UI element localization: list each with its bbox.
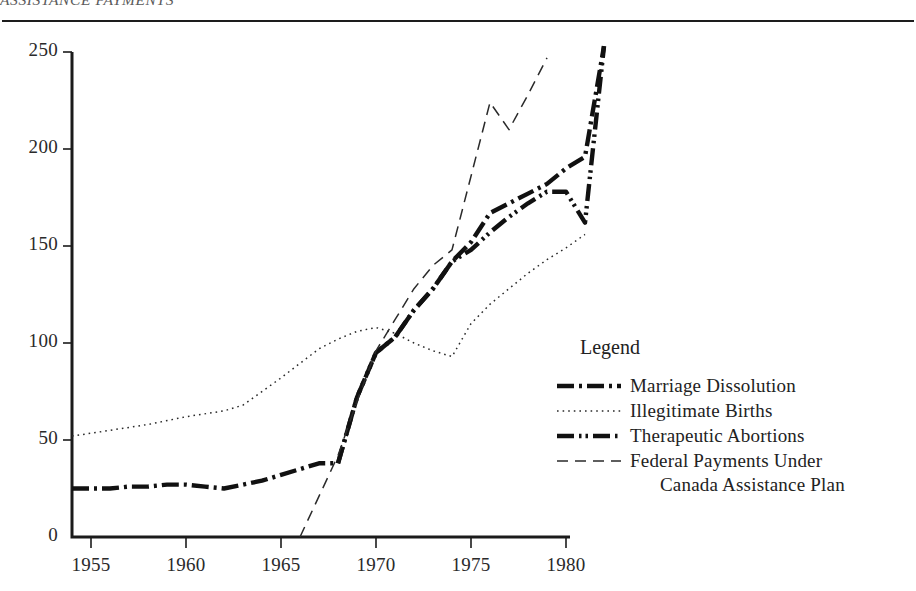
- legend-item-label: Illegitimate Births: [630, 400, 773, 422]
- legend-item-1: Illegitimate Births: [556, 398, 908, 423]
- legend-rows: Marriage DissolutionIllegitimate BirthsT…: [556, 373, 908, 473]
- legend-item-0: Marriage Dissolution: [556, 373, 908, 398]
- y-tick-label: 100: [29, 330, 58, 352]
- x-tick-label: 1955: [51, 554, 131, 576]
- x-tick-label: 1980: [526, 554, 606, 576]
- series-line-0: [72, 46, 604, 488]
- line-dotted-swatch: [556, 403, 622, 419]
- legend-item-label: Federal Payments Under: [630, 450, 822, 472]
- data-series-group: [72, 46, 604, 537]
- legend-item-label: Marriage Dissolution: [630, 375, 796, 397]
- y-tick-label: 0: [48, 524, 58, 546]
- legend-title: Legend: [580, 336, 908, 359]
- line-chart-svg: [0, 0, 916, 591]
- chart-page: ASSISTANCE PAYMENTS 050100150200250 1955…: [0, 0, 916, 591]
- line-dash-dot-dot-swatch: [556, 428, 622, 444]
- y-tick-label: 250: [29, 39, 58, 61]
- y-tick-label: 50: [38, 427, 58, 449]
- x-tick-label: 1965: [241, 554, 321, 576]
- y-tick-label: 150: [29, 233, 58, 255]
- series-line-1: [72, 234, 585, 436]
- y-tick-label: 200: [29, 136, 58, 158]
- x-tick-label: 1960: [146, 554, 226, 576]
- x-tick-label: 1970: [336, 554, 416, 576]
- legend-item-2: Therapeutic Abortions: [556, 423, 908, 448]
- line-dashed-swatch: [556, 453, 622, 469]
- chart-legend: Legend Marriage DissolutionIllegitimate …: [556, 336, 908, 496]
- x-tick-label: 1975: [431, 554, 511, 576]
- line-dash-dot-swatch: [556, 378, 622, 394]
- chart-plot-area: 050100150200250 195519601965197019751980: [0, 0, 916, 591]
- tick-marks: [63, 52, 566, 548]
- legend-item-label: Therapeutic Abortions: [630, 425, 805, 447]
- legend-item-3: Federal Payments Under: [556, 448, 908, 473]
- legend-continuation-label: Canada Assistance Plan: [660, 474, 908, 496]
